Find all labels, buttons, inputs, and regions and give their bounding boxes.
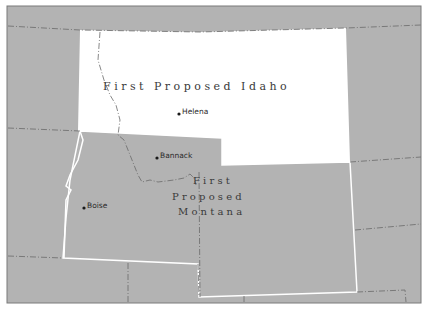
label-montana-line3: M o n t a n a	[178, 206, 242, 217]
historical-territory-map: F i r s t P r o p o s e d I d a h o F i …	[0, 0, 427, 326]
label-montana-line2: P r o p o s e d	[172, 191, 242, 202]
city-bannack	[155, 156, 158, 159]
city-helena	[177, 112, 180, 115]
city-label-helena: Helena	[182, 107, 208, 116]
city-label-boise: Boise	[87, 201, 107, 210]
label-first-proposed-idaho: F i r s t P r o p o s e d I d a h o	[103, 80, 287, 93]
city-dot-icon	[82, 206, 85, 209]
city-dot-icon	[155, 156, 158, 159]
city-label-bannack: Bannack	[160, 151, 192, 160]
city-dot-icon	[177, 112, 180, 115]
label-montana-line1: F i r s t	[193, 175, 230, 186]
city-boise	[82, 206, 85, 209]
